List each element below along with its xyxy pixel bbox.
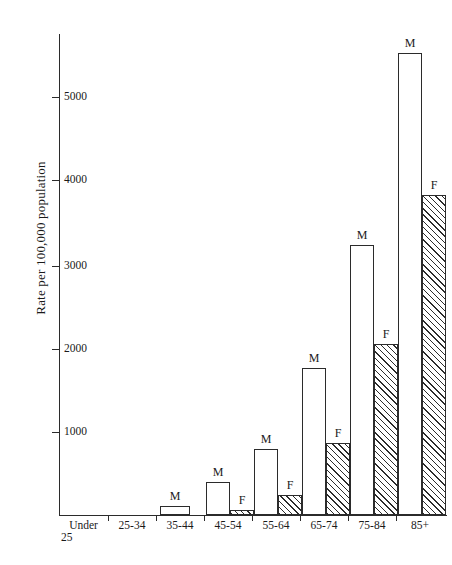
bar-tag-85-plus-female: F — [422, 178, 446, 193]
bar-chart: Rate per 100,000 population 5000 4000 30… — [0, 0, 452, 565]
bar-tag-75-84-female: F — [374, 327, 398, 342]
y-tick-label-3000: 3000 — [64, 259, 87, 271]
bar-tag-75-84-male: M — [350, 228, 374, 243]
bar-85-plus-female — [422, 195, 446, 515]
bar-75-84-male — [350, 245, 374, 515]
x-axis-line — [59, 515, 447, 516]
y-tick-4000 — [52, 180, 59, 181]
bar-35-44-male — [160, 506, 190, 515]
bar-85-plus-male — [398, 53, 422, 515]
x-label-25-34: 25-34 — [108, 519, 156, 531]
bar-65-74-female — [326, 443, 350, 515]
bar-45-54-male — [206, 482, 230, 515]
x-label-line2: 25 — [59, 531, 108, 543]
y-axis-line — [59, 34, 60, 516]
x-label-85-plus: 85+ — [396, 519, 444, 531]
bar-45-54-female — [230, 510, 254, 515]
y-tick-3000 — [52, 266, 59, 267]
x-label-45-54: 45-54 — [204, 519, 252, 531]
x-label-under-25: Under 25 — [59, 519, 108, 543]
bar-65-74-male — [302, 368, 326, 515]
bar-tag-45-54-male: M — [206, 465, 230, 480]
y-tick-label-1000: 1000 — [64, 425, 87, 437]
x-label-55-64: 55-64 — [252, 519, 300, 531]
y-tick-1000 — [52, 432, 59, 433]
y-tick-label-2000: 2000 — [64, 342, 87, 354]
bar-75-84-female — [374, 344, 398, 515]
x-label-75-84: 75-84 — [348, 519, 396, 531]
bar-tag-55-64-male: M — [254, 432, 278, 447]
y-tick-label-4000: 4000 — [64, 173, 87, 185]
y-tick-label-5000: 5000 — [64, 90, 87, 102]
bar-tag-85-plus-male: M — [398, 36, 422, 51]
x-label-65-74: 65-74 — [300, 519, 348, 531]
bar-tag-35-44-male: M — [160, 489, 190, 504]
bar-tag-55-64-female: F — [278, 478, 302, 493]
bar-tag-45-54-female: F — [230, 493, 254, 508]
bar-55-64-female — [278, 495, 302, 515]
x-label-line1: Under — [69, 519, 98, 531]
y-tick-2000 — [52, 349, 59, 350]
bar-tag-65-74-female: F — [326, 426, 350, 441]
bar-55-64-male — [254, 449, 278, 515]
y-tick-5000 — [52, 97, 59, 98]
x-label-35-44: 35-44 — [156, 519, 204, 531]
bar-tag-65-74-male: M — [302, 351, 326, 366]
y-axis-title: Rate per 100,000 population — [33, 123, 49, 353]
